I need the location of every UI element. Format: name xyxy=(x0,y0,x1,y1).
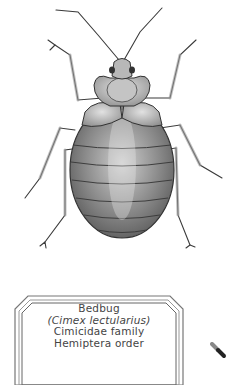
bedbug-illustration xyxy=(0,0,228,270)
bedbug-icon xyxy=(0,0,228,270)
pin-icon xyxy=(210,342,228,364)
family-name: Cimicidae family xyxy=(14,326,184,338)
common-name: Bedbug xyxy=(14,303,184,315)
order-name: Hemiptera order xyxy=(14,338,184,350)
specimen-label: Bedbug (Cimex lectularius) Cimicidae fam… xyxy=(14,295,184,385)
